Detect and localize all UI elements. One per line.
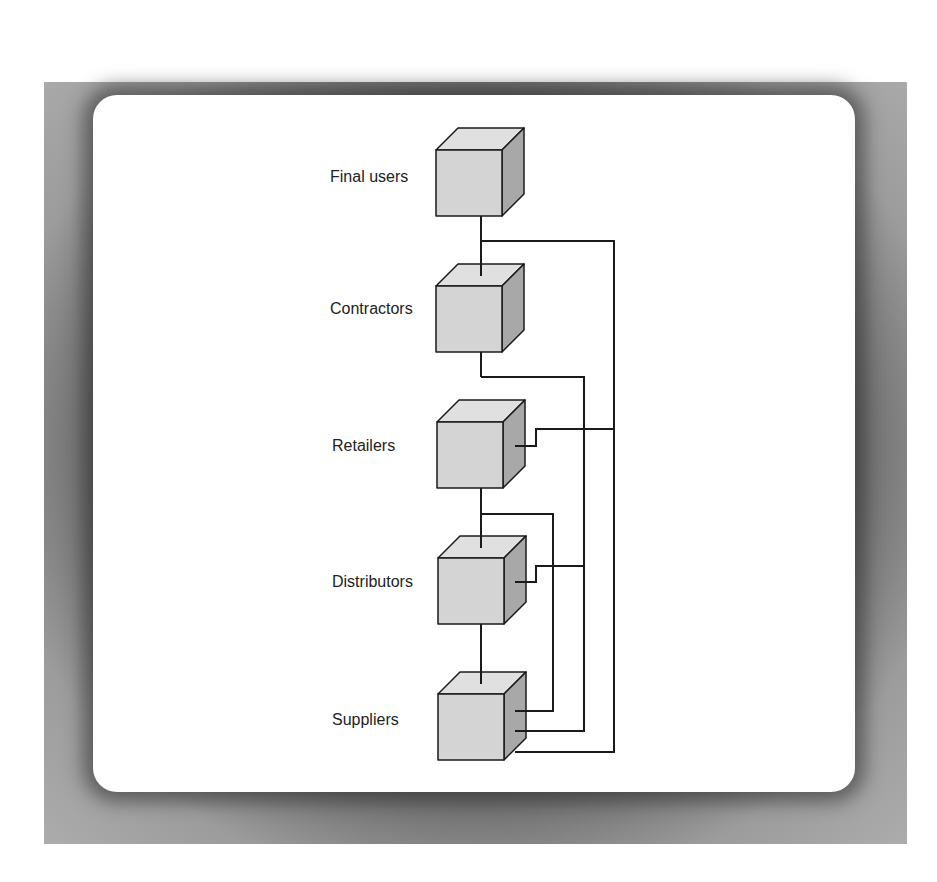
cube-suppliers (438, 672, 526, 760)
label-contractors: Contractors (330, 300, 413, 318)
label-suppliers: Suppliers (332, 711, 399, 729)
cube-distributors (438, 536, 526, 624)
cube-contractors (436, 264, 524, 352)
supply-chain-diagram (0, 0, 937, 882)
label-distributors: Distributors (332, 573, 413, 591)
edge-final-users-retailers (515, 429, 614, 446)
label-final-users: Final users (330, 168, 408, 186)
cube-retailers (437, 400, 525, 488)
label-retailers: Retailers (332, 437, 395, 455)
cube-final-users (436, 128, 524, 216)
